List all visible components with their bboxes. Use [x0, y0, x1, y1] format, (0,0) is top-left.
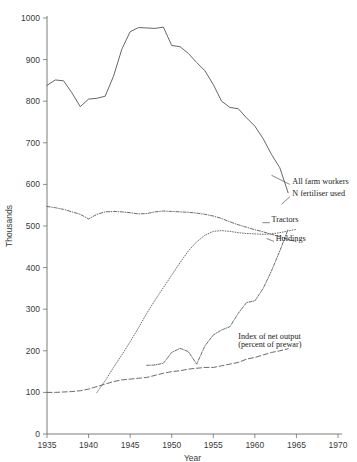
x-tick-label: 1965 — [287, 440, 306, 450]
series-line-index-of-net-output-percent-of-prewar — [47, 349, 288, 393]
series-labels-group: All farm workersN fertiliser usedTractor… — [238, 175, 348, 349]
y-tick-label: 900 — [26, 55, 40, 65]
label-leader-3 — [266, 238, 273, 241]
x-axis-title: Year — [184, 453, 201, 462]
y-tick-label: 300 — [26, 304, 40, 314]
x-tick-label: 1945 — [121, 440, 140, 450]
label-leader-0 — [271, 175, 289, 184]
y-tick-label: 500 — [26, 221, 40, 231]
x-tick-label: 1950 — [162, 440, 181, 450]
x-tick-label: 1955 — [204, 440, 223, 450]
y-tick-label: 600 — [26, 179, 40, 189]
label-all-farm-workers: All farm workers — [292, 177, 348, 186]
y-axis-title: Thousands — [4, 205, 14, 247]
y-tick-label: 400 — [26, 263, 40, 273]
chart-figure: 0100200300400500600700800900100019351940… — [0, 0, 357, 462]
y-tick-label: 200 — [26, 346, 40, 356]
y-tick-label: 700 — [26, 138, 40, 148]
label-n-fertiliser-used: N fertiliser used — [292, 189, 345, 198]
label-index-of-net-output-sub: (percent of prewar) — [238, 340, 301, 349]
series-line-holdings — [47, 206, 296, 241]
y-tick-label: 100 — [26, 387, 40, 397]
y-tick-label: 1000 — [21, 13, 40, 23]
x-tick-label: 1970 — [329, 440, 348, 450]
label-leader-1 — [281, 197, 289, 204]
x-tick-label: 1960 — [245, 440, 264, 450]
label-tractors: Tractors — [271, 215, 298, 224]
y-tick-label: 800 — [26, 96, 40, 106]
x-tick-label: 1940 — [79, 440, 98, 450]
line-chart-plot: 0100200300400500600700800900100019351940… — [0, 0, 357, 462]
x-tick-label: 1935 — [38, 440, 57, 450]
label-holdings: Holdings — [276, 234, 306, 243]
series-line-all-farm-workers — [47, 27, 288, 193]
y-tick-label: 0 — [35, 429, 40, 439]
